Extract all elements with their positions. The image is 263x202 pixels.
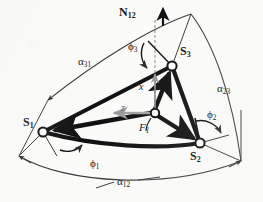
label-axis-x: x (139, 82, 143, 92)
edge-s1-s2 (43, 132, 200, 146)
label-axis-z: z (121, 103, 125, 113)
label-s1: S1 (23, 116, 34, 130)
vector-f1-s1 (56, 113, 151, 130)
label-phi3: ϕ3 (128, 41, 137, 54)
label-s2: S2 (190, 150, 201, 164)
label-s3: S3 (180, 45, 191, 59)
label-phi2: ϕ2 (207, 109, 216, 122)
label-f1: F1 (139, 122, 149, 135)
label-n12: N12 (119, 6, 136, 20)
vector-f1-s3 (155, 74, 169, 109)
vector-f1-s2 (158, 116, 193, 138)
label-alpha23: α23 (217, 83, 230, 96)
geometry-diagram (0, 0, 263, 202)
label-alpha31: α31 (78, 56, 91, 69)
label-alpha12: α12 (117, 176, 130, 189)
outer-arc-alpha31 (48, 14, 191, 100)
label-phi1: ϕ1 (90, 158, 99, 171)
